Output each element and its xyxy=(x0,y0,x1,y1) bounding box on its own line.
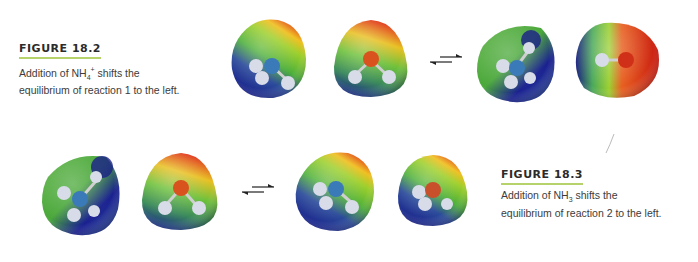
subscript: 4 xyxy=(87,74,91,81)
figure-18-3-caption: FIGURE 18.3 Addition of NH3 shifts the e… xyxy=(501,164,698,220)
water-potential-map-2 xyxy=(139,150,221,232)
caption-text: shifts the xyxy=(573,189,618,201)
caption-text: Addition of NH xyxy=(19,67,87,79)
figure-title: FIGURE 18.2 xyxy=(19,42,101,59)
figure-title: FIGURE 18.3 xyxy=(501,168,583,185)
figure-caption-text: Addition of NH4+ shifts the equilibrium … xyxy=(19,63,219,98)
nh4-potential-map-2 xyxy=(40,147,124,237)
equilibrium-arrow-icon xyxy=(428,53,464,67)
nh4-potential-map xyxy=(228,14,308,100)
caption-text: equilibrium of reaction 1 to the left. xyxy=(19,84,180,96)
decorative-stroke xyxy=(604,133,616,155)
hydroxide-potential-map xyxy=(574,20,662,100)
nh3-potential-map xyxy=(475,16,559,104)
water-potential-map-3 xyxy=(395,152,471,228)
water-potential-map xyxy=(331,17,411,99)
caption-text: Addition of NH xyxy=(501,189,569,201)
equilibrium-arrow-icon xyxy=(240,183,276,197)
nh3-potential-map-2 xyxy=(292,147,376,233)
figure-18-2-caption: FIGURE 18.2 Addition of NH4+ shifts the … xyxy=(19,38,219,98)
caption-text: shifts the xyxy=(95,67,140,79)
figure-caption-text: Addition of NH3 shifts the equilibrium o… xyxy=(501,189,698,220)
caption-text: equilibrium of reaction 2 to the left. xyxy=(501,207,662,219)
